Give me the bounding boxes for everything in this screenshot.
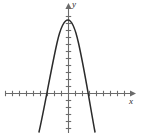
y-axis-arrowhead bbox=[65, 3, 71, 9]
coordinate-plane-svg bbox=[0, 0, 142, 136]
x-axis-group bbox=[5, 90, 136, 96]
parabola-figure: y x bbox=[0, 0, 142, 136]
y-axis-label: y bbox=[72, 0, 76, 9]
parabola-curve bbox=[39, 20, 95, 132]
x-axis-label: x bbox=[129, 97, 133, 106]
